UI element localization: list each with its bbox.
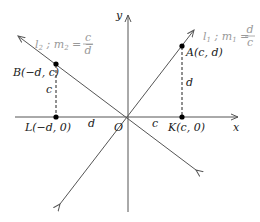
- line-l2-label: l2 ; m2 = − c d: [35, 31, 94, 57]
- x-axis-label: x: [233, 121, 240, 134]
- segment-OK-label: c: [152, 117, 158, 130]
- point-K-label: K(c, 0): [167, 121, 205, 134]
- point-L-label: L(−d, 0): [24, 121, 71, 134]
- point-L: [53, 114, 58, 119]
- coordinate-diagram: y x O A(c, d) B(−d, c) K(c, 0) L(−d, 0) …: [0, 0, 260, 222]
- point-A-label: A(c, d): [185, 46, 223, 59]
- segment-BL-label: c: [46, 83, 52, 96]
- svg-text:d: d: [84, 44, 91, 57]
- segment-LO-label: d: [88, 117, 95, 130]
- line-l2: [18, 36, 196, 170]
- point-K: [179, 114, 184, 119]
- origin-label: O: [114, 121, 123, 134]
- point-B-label: B(−d, c): [12, 66, 59, 79]
- svg-text:l1 ; m1 =: l1 ; m1 =: [203, 30, 249, 44]
- y-axis-label: y: [115, 9, 123, 22]
- svg-text:d: d: [246, 23, 253, 36]
- point-A: [179, 43, 184, 48]
- svg-text:c: c: [247, 36, 253, 49]
- segment-AK-label: d: [186, 76, 193, 89]
- svg-text:c: c: [85, 31, 91, 44]
